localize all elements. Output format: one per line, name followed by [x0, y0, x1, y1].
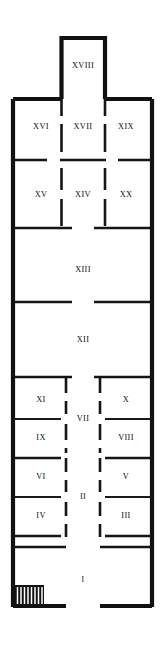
room-label-xiii: XIII — [75, 265, 91, 274]
floor-plan-svg: XVIII XVI XVII XIX XV XIV XX XIII XII XI… — [0, 0, 164, 650]
room-label-ix: IX — [36, 433, 45, 442]
room-label-xvii: XVII — [74, 122, 93, 131]
room-label-i: I — [82, 575, 85, 584]
room-label-vii: VII — [77, 414, 90, 423]
room-label-x: X — [123, 395, 129, 404]
room-label-iv: IV — [36, 511, 45, 520]
room-label-vi: VI — [36, 472, 45, 481]
room-label-xx: XX — [120, 190, 133, 199]
floor-plan-diagram: XVIII XVI XVII XIX XV XIV XX XIII XII XI… — [0, 0, 164, 650]
room-label-xiv: XIV — [75, 190, 91, 199]
outer-wall-main-body — [13, 99, 152, 607]
room-label-xix: XIX — [118, 122, 134, 131]
room-label-xii: XII — [77, 335, 90, 344]
room-label-ii: II — [80, 492, 86, 501]
room-label-xvi: XVI — [33, 122, 49, 131]
staircase-icon — [14, 585, 44, 606]
room-label-xv: XV — [35, 190, 48, 199]
room-label-viii: VIII — [118, 433, 134, 442]
room-label-v: V — [123, 472, 129, 481]
room-label-xi: XI — [36, 395, 45, 404]
room-label-iii: III — [121, 511, 130, 520]
room-label-xviii: XVIII — [72, 61, 94, 70]
